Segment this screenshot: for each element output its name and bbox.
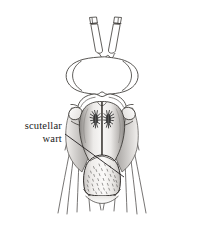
left-antenna-tip xyxy=(90,17,98,24)
annotation-label-line2: wart xyxy=(43,133,62,144)
anatomy-illustration: scutellar wart xyxy=(0,0,204,229)
mesonotum-group xyxy=(79,101,124,163)
annotation-label-line1: scutellar xyxy=(25,120,63,131)
head-capsule xyxy=(66,57,138,95)
illustration-figure: scutellar wart xyxy=(0,0,204,229)
